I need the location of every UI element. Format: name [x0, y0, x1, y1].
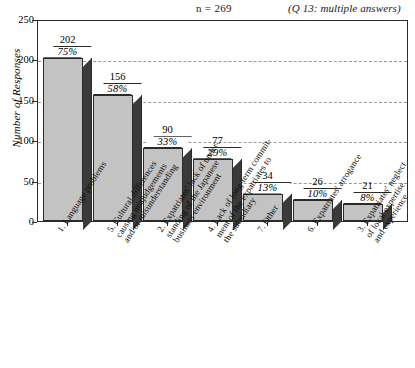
- y-axis-tick-label: 200: [4, 55, 34, 65]
- bar-value-label: 202: [43, 34, 92, 45]
- bar-value-label: 156: [93, 71, 142, 82]
- y-axis-tick-label: 50: [4, 177, 34, 187]
- bar-percent-label: 75%: [43, 46, 92, 58]
- sample-size-label: n = 269: [196, 2, 232, 14]
- bar-chart: n = 269 (Q 13: multiple answers) Number …: [0, 0, 415, 368]
- y-axis-tick-label: 250: [4, 15, 34, 25]
- bar-side-face: [83, 58, 92, 230]
- y-axis-tick-mark: [32, 222, 37, 223]
- bar-percent-label: 58%: [93, 83, 142, 95]
- y-axis-tick-label: 150: [4, 96, 34, 106]
- y-axis-tick-label: 0: [4, 217, 34, 227]
- question-note-label: (Q 13: multiple answers): [288, 2, 401, 14]
- gridline: [38, 61, 407, 62]
- bar-side-face: [333, 200, 342, 230]
- y-axis-tick-label: 100: [4, 136, 34, 146]
- plot-area: 75%20258%15633%9029%7713%3410%268%21: [37, 20, 408, 222]
